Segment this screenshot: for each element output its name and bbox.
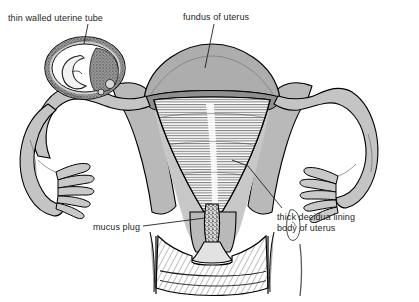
gestation-sac-contents [45, 37, 125, 99]
label-thick-decidua-line2: body of uterus [277, 223, 355, 234]
label-fundus-of-uterus: fundus of uterus [183, 12, 249, 23]
left-fimbriae [56, 163, 94, 218]
anatomical-figure: thin walled uterine tube fundus of uteru… [0, 0, 419, 302]
label-thick-decidua: thick decidua lining body of uterus [277, 212, 355, 233]
mucus-plug [205, 204, 220, 247]
fundus-of-uterus [144, 44, 280, 98]
left-uterine-tube [20, 37, 150, 219]
label-thin-walled-uterine-tube: thin walled uterine tube [8, 13, 103, 24]
right-uterine-tube [274, 88, 378, 222]
label-mucus-plug: mucus plug [93, 222, 140, 233]
uterus-illustration [0, 0, 419, 302]
label-thick-decidua-line1: thick decidua lining [277, 212, 355, 223]
